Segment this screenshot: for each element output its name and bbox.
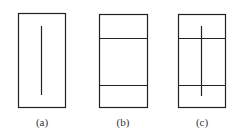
panel-b [100, 15, 148, 108]
panel-b-label: (b) [117, 116, 130, 128]
panel-a [19, 14, 66, 108]
panel-a-label: (a) [36, 116, 48, 128]
panel-c-label: (c) [196, 116, 208, 128]
panel-c [179, 15, 226, 108]
panel-b-rect [100, 15, 148, 108]
